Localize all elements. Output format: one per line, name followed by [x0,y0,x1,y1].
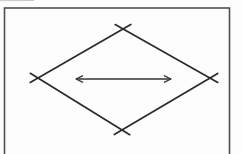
diamond-edge-right-bottom [114,73,217,134]
diamond-edge-top-right [115,25,218,83]
diamond-edge-left-top [30,25,131,83]
figure-canvas [0,0,242,154]
diagram-svg [0,0,242,154]
diamond-edge-bottom-left [30,73,129,134]
